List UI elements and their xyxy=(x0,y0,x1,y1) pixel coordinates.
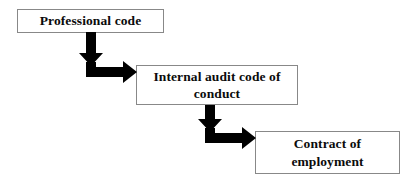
elbow-arrow-icon-internal-to-contract xyxy=(198,105,256,149)
node-contract-employment: Contract of employment xyxy=(255,131,400,174)
node-internal-audit-code: Internal audit code of conduct xyxy=(136,65,298,105)
node-professional-code-label: Professional code xyxy=(40,12,142,29)
node-internal-audit-code-line1: Internal audit code of xyxy=(153,69,280,84)
node-internal-audit-code-label: Internal audit code of conduct xyxy=(153,68,280,103)
node-professional-code: Professional code xyxy=(17,9,164,33)
node-internal-audit-code-line2: conduct xyxy=(194,86,240,101)
node-contract-employment-label: Contract of employment xyxy=(291,135,363,170)
elbow-arrow-icon-professional-to-internal xyxy=(79,32,137,83)
diagram-canvas: Professional code Internal audit code of… xyxy=(0,0,414,181)
node-contract-employment-line1: Contract of xyxy=(294,136,361,151)
node-contract-employment-line2: employment xyxy=(291,154,363,169)
